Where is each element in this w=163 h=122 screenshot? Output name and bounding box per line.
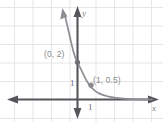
- y-axis-tick-label-1: 1: [70, 79, 75, 88]
- y-axis-down-arrow: [74, 108, 82, 119]
- point-marker-0-2: [75, 60, 80, 65]
- x-axis-label: x: [152, 104, 156, 113]
- exponential-decay-graph: (0, 2) (1, 0.5) y x 1 1: [0, 0, 163, 122]
- x-axis-tick-label-1: 1: [88, 103, 93, 112]
- point-label-0-2: (0, 2): [44, 50, 64, 59]
- point-label-1-05: (1, 0.5): [93, 76, 121, 85]
- grid-lines: [0, 0, 163, 122]
- x-axis-left-arrow: [7, 95, 18, 103]
- graph-canvas: [0, 0, 163, 122]
- y-axis-label: y: [82, 9, 86, 18]
